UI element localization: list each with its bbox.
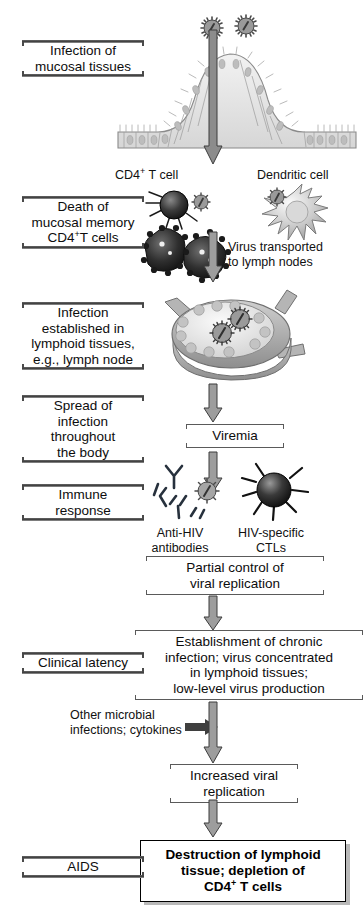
destruction-line1: Destruction of lymphoid — [165, 847, 320, 862]
sidebar-item-aids[interactable]: AIDS — [22, 856, 144, 878]
lymph-node-icon — [163, 288, 323, 380]
mucosal-infection-line2: mucosal tissues — [35, 59, 131, 74]
cd4-death-line3a: CD4 — [47, 230, 74, 245]
hiv-virion-top-right-icon — [234, 14, 258, 38]
rule-top — [22, 196, 144, 199]
destruction-tcells-text: T cells — [236, 879, 282, 894]
chronic-to-increased-arrow — [203, 702, 223, 764]
mucosal-epithelium-icon — [118, 40, 356, 170]
virus-transport-line1: Virus transported — [228, 240, 323, 254]
other-microbial-label: Other microbial infections; cytokines — [70, 708, 195, 737]
sidebar-item-mucosal-infection[interactable]: Infection of mucosal tissues — [22, 40, 144, 77]
cd4-death-line3b: T cells — [80, 230, 119, 245]
other-microbial-line2: infections; cytokines — [70, 723, 182, 737]
destruction-line2: tissue; depletion of — [181, 863, 305, 878]
chronic-line2: infection; virus concentrated — [165, 650, 333, 665]
rule-top — [22, 856, 144, 859]
sidebar-item-systemic-spread[interactable]: Spread of infection throughout the body — [22, 395, 144, 463]
increased-repl-line2: replication — [203, 784, 265, 799]
virus-transport-arrow — [203, 232, 223, 284]
rule-bottom — [22, 246, 144, 249]
sidebar-item-memory-cd4-death[interactable]: Death of mucosal memory CD4+T cells — [22, 196, 144, 249]
cd4-death-line2: mucosal memory — [32, 215, 135, 230]
chronic-line4: low-level virus production — [173, 681, 325, 696]
t-cell-text: T cell — [145, 168, 178, 182]
lymphoid-line2: established in — [42, 321, 125, 336]
cd4-death-line1: Death of — [57, 199, 108, 214]
sidebar-item-immune-response[interactable]: Immune response — [22, 484, 144, 521]
aids-label: AIDS — [67, 859, 99, 874]
antibodies-icon — [152, 462, 232, 524]
increased-repl-line1: Increased viral — [190, 768, 278, 783]
rule-bottom — [22, 518, 144, 521]
spread-line4: the body — [57, 445, 109, 460]
destruction-node: Destruction of lymphoid tissue; depletio… — [140, 840, 346, 902]
rule-top — [22, 302, 144, 305]
rule-bottom — [22, 74, 144, 77]
immune-line1: Immune — [59, 487, 108, 502]
partial-control-line2: viral replication — [190, 576, 280, 591]
anti-hiv-antibodies-label: Anti-HIV antibodies — [140, 526, 220, 555]
chronic-line1: Establishment of chronic — [175, 634, 322, 649]
destruction-cd4-text: CD4 — [204, 879, 231, 894]
hiv-ctl-line2: CTLs — [256, 541, 286, 555]
hiv-specific-ctls-label: HIV-specific CTLs — [228, 526, 314, 555]
clinical-latency-label: Clinical latency — [38, 655, 128, 670]
virus-transport-label: Virus transported to lymph nodes — [228, 240, 356, 269]
sidebar-item-lymphoid-infection[interactable]: Infection established in lymphoid tissue… — [22, 302, 144, 370]
spread-line1: Spread of — [54, 398, 113, 413]
partial-control-line1: Partial control of — [186, 560, 284, 575]
rule-top — [22, 395, 144, 398]
ctl-cell-icon — [240, 462, 316, 524]
lymphoid-line1: Infection — [57, 305, 108, 320]
increased-to-aids-arrow — [203, 800, 223, 838]
rule-bottom — [22, 460, 144, 463]
rule-bottom — [22, 367, 144, 370]
partial-control-to-chronic-arrow — [203, 596, 223, 632]
chronic-infection-node: Establishment of chronic infection; viru… — [135, 630, 363, 700]
chronic-line3: in lymphoid tissues; — [190, 665, 308, 680]
virus-entry-arrow — [203, 30, 223, 166]
partial-control-node: Partial control of viral replication — [146, 556, 324, 595]
virus-transport-line2: to lymph nodes — [228, 255, 313, 269]
mucosal-infection-line1: Infection of — [50, 43, 116, 58]
increased-replication-node: Increased viral replication — [170, 764, 298, 803]
lymphoid-line3: lymphoid tissues, — [31, 336, 135, 351]
cd4-t-cell-label: CD4+ T cell — [115, 168, 205, 183]
rule-bottom — [22, 875, 144, 878]
spread-line3: throughout — [51, 429, 116, 444]
hiv-ctl-line1: HIV-specific — [238, 526, 304, 540]
dendritic-cell-label: Dendritic cell — [257, 168, 357, 183]
viremia-node: Viremia — [186, 424, 284, 448]
anti-hiv-line2: antibodies — [152, 541, 209, 555]
lymphoid-line4: e.g., lymph node — [33, 352, 133, 367]
viremia-label: Viremia — [212, 428, 258, 443]
cd4-text: CD4 — [115, 168, 140, 182]
rule-bottom — [22, 671, 144, 674]
rule-top — [22, 652, 144, 655]
immune-line2: response — [55, 503, 111, 518]
rule-top — [22, 40, 144, 43]
anti-hiv-line1: Anti-HIV — [157, 526, 204, 540]
lymph-to-viremia-arrow — [203, 384, 223, 424]
spread-line2: infection — [58, 414, 108, 429]
sidebar-item-clinical-latency[interactable]: Clinical latency — [22, 652, 144, 674]
other-microbial-line1: Other microbial — [70, 708, 155, 722]
rule-top — [22, 484, 144, 487]
